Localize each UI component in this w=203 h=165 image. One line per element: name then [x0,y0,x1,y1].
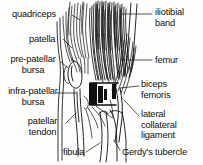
quadriceps-tendon-bundle [63,2,89,62]
label-patella: patella [29,34,55,45]
label-infra-patellar-bursa: infra-patellar bursa [1,86,65,107]
leader-patellar-tendon [66,113,76,123]
anatomy-diagram: quadriceps patella pre-patellar bursa in… [0,0,203,165]
leader-fibula [86,143,100,152]
label-iliotibial-band-line-2: band [155,18,203,29]
label-lateral-collateral-ligament: lateral collateral ligament [141,109,201,141]
label-patellar-tendon-line-2: tendon [20,127,65,138]
label-pre-patellar-bursa-line-2: bursa [2,65,64,76]
label-patellar-tendon-line-1: patellar [20,116,65,127]
label-femur: femur [155,55,178,66]
label-infra-patellar-bursa-line-2: bursa [1,97,65,108]
label-fibula: fibula [63,147,84,158]
label-lateral-collateral-ligament-line-3: ligament [141,130,201,141]
leader-quadriceps [72,15,80,20]
label-pre-patellar-bursa: pre-patellar bursa [2,54,64,75]
label-patellar-tendon: patellar tendon [20,116,65,137]
label-lateral-collateral-ligament-line-2: collateral [141,120,201,131]
label-quadriceps-line-1: quadriceps [12,9,56,19]
label-pre-patellar-bursa-line-1: pre-patellar [2,54,64,65]
label-lateral-collateral-ligament-line-1: lateral [141,109,201,120]
label-biceps-femoris: biceps femoris [141,79,201,100]
label-iliotibial-band: iliotibial band [155,7,203,28]
label-femur-line-1: femur [155,55,178,65]
label-patella-line-1: patella [29,34,55,44]
label-quadriceps: quadriceps [12,9,56,20]
leader-lateral-collateral-ligament [124,100,139,116]
label-fibula-line-1: fibula [63,147,84,157]
label-biceps-femoris-line-1: biceps [141,79,201,90]
label-iliotibial-band-line-1: iliotibial [155,7,203,18]
patellar-tendon-strap [74,89,84,156]
infra-patellar-bursa-outline [84,96,88,109]
fibula-head [99,111,108,162]
label-gerdys-tubercle: Gerdy's tubercle [122,147,187,158]
label-biceps-femoris-line-2: femoris [141,90,201,101]
label-gerdys-tubercle-line-1: Gerdy's tubercle [122,147,187,157]
label-infra-patellar-bursa-line-1: infra-patellar [1,86,65,97]
patella-outline [68,61,82,88]
